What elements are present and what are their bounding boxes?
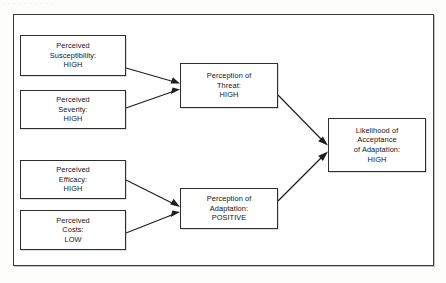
node-line: Costs:: [62, 225, 83, 235]
arrow-severity-to-threat: [126, 88, 180, 109]
node-line: Perceived: [56, 95, 90, 105]
node-line: Perceived: [56, 165, 90, 175]
node-value: HIGH: [368, 155, 387, 165]
node-value: POSITIVE: [212, 213, 247, 223]
arrow-adaptation-to-likelihood: [278, 152, 328, 202]
node-line: Adaptation:: [210, 204, 248, 214]
node-value: HIGH: [220, 90, 239, 100]
node-line: Perceived: [56, 216, 90, 226]
node-perceived-susceptibility: Perceived Susceptibility: HIGH: [20, 35, 126, 76]
node-perception-of-adaptation: Perception of Adaptation: POSITIVE: [180, 188, 278, 229]
node-line: Perception of: [207, 71, 252, 81]
arrow-threat-to-likelihood: [278, 95, 328, 146]
node-value: LOW: [64, 235, 81, 245]
arrow-costs-to-adaptation: [126, 211, 180, 233]
arrow-susceptibility-to-threat: [126, 68, 180, 84]
arrow-efficacy-to-adaptation: [126, 180, 180, 207]
node-line: Susceptibility:: [50, 51, 96, 61]
node-line: Efficacy:: [59, 175, 88, 185]
node-line: Perceived: [56, 41, 90, 51]
figure-frame: Perceived Susceptibility: HIGH Perceived…: [13, 14, 434, 266]
node-line: Perception of: [207, 194, 252, 204]
node-line: Threat:: [217, 81, 241, 91]
node-perceived-costs: Perceived Costs: LOW: [20, 210, 126, 250]
cropped-caption-remnant: · · · · · · · · · ·: [2, 0, 122, 8]
node-likelihood-of-acceptance: Likelihood of Acceptance of Adaptation: …: [328, 118, 426, 172]
node-value: HIGH: [64, 114, 83, 124]
node-line: Likelihood of: [356, 126, 399, 136]
node-perceived-efficacy: Perceived Efficacy: HIGH: [20, 160, 126, 199]
node-line: Severity:: [58, 105, 87, 115]
node-line: Acceptance: [357, 135, 396, 145]
node-value: HIGH: [64, 184, 83, 194]
node-perceived-severity: Perceived Severity: HIGH: [20, 90, 126, 129]
node-line: of Adaptation:: [354, 145, 400, 155]
node-perception-of-threat: Perception of Threat: HIGH: [180, 63, 278, 108]
node-value: HIGH: [64, 60, 83, 70]
diagram-screenshot: · · · · · · · · · ·: [0, 0, 446, 283]
